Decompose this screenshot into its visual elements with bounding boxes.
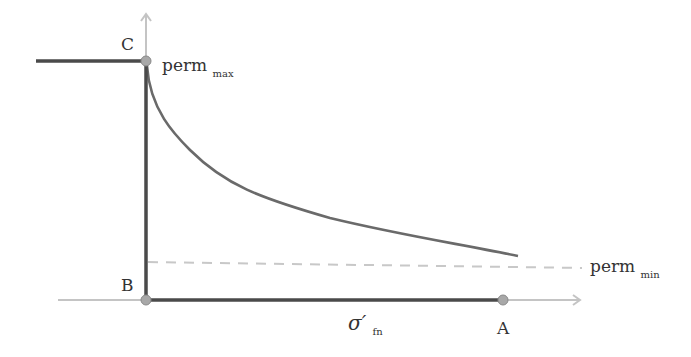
x-axis-label: σ′ fn — [348, 311, 383, 337]
perm-max-label: perm max — [162, 55, 234, 79]
diagram-canvas: C B A perm max perm min σ′ fn — [0, 0, 691, 357]
perm-min-dashed-line — [148, 262, 582, 268]
point-b-marker — [141, 295, 151, 305]
point-c-label: C — [121, 34, 134, 54]
point-c-marker — [141, 56, 151, 66]
point-b-label: B — [121, 275, 134, 295]
point-a-label: A — [496, 318, 510, 338]
perm-min-label: perm min — [590, 256, 660, 280]
permeability-decay-curve — [147, 66, 518, 256]
point-a-marker — [498, 295, 508, 305]
